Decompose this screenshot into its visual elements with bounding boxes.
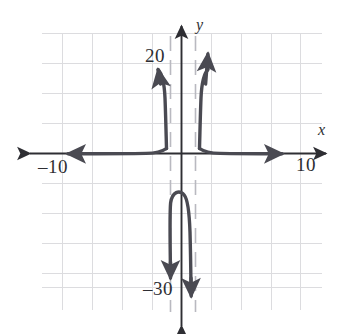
x-axis-label: x — [318, 122, 325, 138]
curve-left-horizontal — [68, 149, 167, 154]
x-tick-label-10: 10 — [296, 155, 316, 174]
y-tick-label-20: 20 — [145, 46, 165, 65]
x-tick-label-negative-10: –10 — [38, 157, 68, 176]
axes — [30, 26, 326, 326]
function-curve — [68, 54, 282, 296]
curve-left-arrow-tip — [158, 70, 160, 84]
y-axis-label: y — [196, 17, 203, 33]
y-tick-label-negative-30: –30 — [143, 279, 173, 298]
graph-figure: 20 –10 10 –30 y x — [0, 0, 350, 334]
curve-right-arrow-tip — [206, 54, 208, 84]
